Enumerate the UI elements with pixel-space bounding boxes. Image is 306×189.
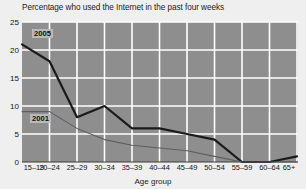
x-axis-title: Age group (0, 177, 306, 186)
y-tick-label: 0 (15, 158, 19, 167)
x-tick-label: 60–64 (259, 163, 280, 172)
x-axis-tick-labels: 15–1920–2425–2930–3435–3940–4445–4950–54… (22, 163, 298, 175)
x-tick-label: 35–39 (122, 163, 143, 172)
y-tick-label: 15 (10, 74, 19, 83)
x-tick-label: 20–24 (39, 163, 60, 172)
y-tick-label: 10 (10, 102, 19, 111)
y-tick-label: 25 (10, 18, 19, 27)
x-tick-label: 50–54 (204, 163, 225, 172)
y-tick-label: 20 (10, 46, 19, 55)
plot-area: 2005 2001 (22, 22, 298, 162)
x-tick-label: 40–44 (149, 163, 170, 172)
y-tick-label: 5 (15, 130, 19, 139)
x-tick-label: 25–29 (67, 163, 88, 172)
series-annotation-2001: 2001 (30, 114, 51, 123)
series-annotation-2005: 2005 (32, 29, 53, 38)
chart-container: Percentage who used the Internet in the … (0, 0, 306, 189)
chart-title: Percentage who used the Internet in the … (22, 3, 224, 12)
x-tick-label: 30–34 (94, 163, 115, 172)
x-tick-label: 55–59 (232, 163, 253, 172)
plot-svg (22, 22, 298, 162)
x-tick-label: 65+ (283, 163, 296, 172)
x-tick-label: 45–49 (177, 163, 198, 172)
y-axis-tick-labels: 0510152025 (0, 22, 19, 162)
